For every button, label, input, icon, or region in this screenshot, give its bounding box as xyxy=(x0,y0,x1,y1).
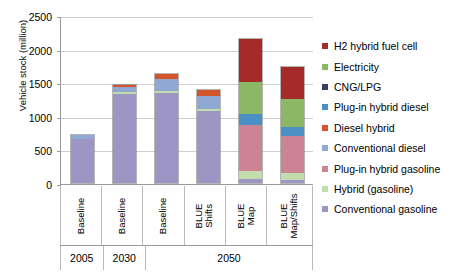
period-cell: 2050 xyxy=(146,246,313,270)
stacked-bar[interactable] xyxy=(112,84,137,184)
bar-segment xyxy=(281,136,304,172)
y-axis-tick-label: 2000 xyxy=(18,45,52,56)
legend-item[interactable]: Diesel hybrid xyxy=(322,118,464,138)
bar-segment xyxy=(239,114,262,125)
bar-slot xyxy=(187,17,229,184)
plot-area xyxy=(60,17,313,185)
legend-swatch-icon xyxy=(322,186,328,192)
legend-item[interactable]: Electricity xyxy=(322,56,464,76)
category-axis: BaselineBaselineBaselineBLUE ShiftsBLUE … xyxy=(60,186,313,246)
bar-segment xyxy=(239,179,262,183)
y-axis-tick-label: 500 xyxy=(18,146,52,157)
category-cell: BLUE Map xyxy=(226,186,267,245)
stacked-bar[interactable] xyxy=(280,66,305,184)
legend-item[interactable]: Conventional gasoline xyxy=(322,199,464,219)
category-label: BLUE Map/Shifts xyxy=(280,193,300,238)
legend-item[interactable]: H2 hybrid fuel cell xyxy=(322,36,464,56)
legend-label: Electricity xyxy=(334,61,379,73)
category-cell: Baseline xyxy=(102,186,143,245)
legend-label: H2 hybrid fuel cell xyxy=(334,40,417,52)
y-axis-tick-label: 2500 xyxy=(18,12,52,23)
bar-segment xyxy=(197,111,220,183)
bar-group xyxy=(61,17,313,184)
bar-slot xyxy=(271,17,313,184)
category-label: Baseline xyxy=(76,197,86,233)
category-label: BLUE Map xyxy=(236,195,256,235)
stacked-bar[interactable] xyxy=(70,134,95,184)
category-label: BLUE Shifts xyxy=(195,203,215,228)
bar-segment xyxy=(239,82,262,115)
bar-segment xyxy=(281,67,304,99)
bar-segment xyxy=(281,127,304,136)
category-cell: Baseline xyxy=(143,186,184,245)
bar-slot xyxy=(229,17,271,184)
y-axis-tick-labels: 05001000150020002500 xyxy=(18,0,52,276)
category-label: Baseline xyxy=(117,197,127,233)
legend-swatch-icon xyxy=(322,104,328,110)
bar-segment xyxy=(155,93,178,183)
legend-label: Hybrid (gasoline) xyxy=(334,183,413,195)
legend-swatch-icon xyxy=(322,145,328,151)
legend-swatch-icon xyxy=(322,166,328,172)
chart-legend: H2 hybrid fuel cellElectricityCNG/LPGPlu… xyxy=(322,36,464,220)
bar-segment xyxy=(281,180,304,183)
bar-segment xyxy=(197,90,220,97)
legend-swatch-icon xyxy=(322,84,328,90)
period-axis: 200520302050 xyxy=(60,246,313,270)
stacked-bar[interactable] xyxy=(196,89,221,184)
legend-item[interactable]: Plug-in hybrid diesel xyxy=(322,97,464,117)
bar-slot xyxy=(145,17,187,184)
legend-swatch-icon xyxy=(322,64,328,70)
bar-segment xyxy=(239,125,262,171)
legend-swatch-icon xyxy=(322,125,328,131)
legend-label: Conventional gasoline xyxy=(334,203,437,215)
stacked-bar[interactable] xyxy=(238,38,263,184)
stacked-bar-chart: Vehicle stock (million) 0500100015002000… xyxy=(0,0,466,276)
bar-segment xyxy=(281,99,304,127)
y-axis-tick-label: 0 xyxy=(18,180,52,191)
bar-segment xyxy=(239,39,262,81)
bar-segment xyxy=(113,94,136,183)
legend-swatch-icon xyxy=(322,43,328,49)
category-cell: Baseline xyxy=(60,186,102,245)
bar-segment xyxy=(71,139,94,183)
category-cell: BLUE Map/Shifts xyxy=(267,186,313,245)
y-axis-tick-label: 1000 xyxy=(18,113,52,124)
legend-item[interactable]: Plug-in hybrid gasoline xyxy=(322,158,464,178)
bar-segment xyxy=(281,173,304,180)
legend-item[interactable]: CNG/LPG xyxy=(322,77,464,97)
legend-label: Conventional diesel xyxy=(334,142,426,154)
bar-segment xyxy=(197,96,220,109)
legend-label: Diesel hybrid xyxy=(334,122,395,134)
period-cell: 2030 xyxy=(104,246,147,270)
legend-label: Plug-in hybrid gasoline xyxy=(334,163,440,175)
category-cell: BLUE Shifts xyxy=(185,186,226,245)
legend-swatch-icon xyxy=(322,206,328,212)
legend-item[interactable]: Hybrid (gasoline) xyxy=(322,179,464,199)
period-cell: 2005 xyxy=(60,246,104,270)
bar-slot xyxy=(103,17,145,184)
bar-slot xyxy=(61,17,103,184)
category-label: Baseline xyxy=(159,197,169,233)
legend-label: CNG/LPG xyxy=(334,81,381,93)
stacked-bar[interactable] xyxy=(154,73,179,184)
bar-segment xyxy=(155,79,178,92)
y-axis-tick-label: 1500 xyxy=(18,79,52,90)
legend-item[interactable]: Conventional diesel xyxy=(322,138,464,158)
legend-label: Plug-in hybrid diesel xyxy=(334,101,429,113)
bar-segment xyxy=(239,171,262,179)
